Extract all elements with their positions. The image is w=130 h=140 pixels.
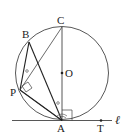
label-T: T <box>97 122 104 134</box>
label-A: A <box>57 122 65 134</box>
label-P: P <box>10 86 16 98</box>
label-O: O <box>65 67 73 79</box>
label-C: C <box>57 14 64 26</box>
angle-mark-circle-A <box>57 102 60 105</box>
label-l: ℓ <box>115 113 120 127</box>
point-O <box>61 72 64 75</box>
label-B: B <box>22 28 29 40</box>
angle-mark-circle-B <box>26 70 29 73</box>
geometry-diagram: C B O P A T ℓ <box>0 0 130 140</box>
diagram-canvas: C B O P A T ℓ <box>0 0 130 140</box>
right-angle-mark-P <box>22 82 32 92</box>
